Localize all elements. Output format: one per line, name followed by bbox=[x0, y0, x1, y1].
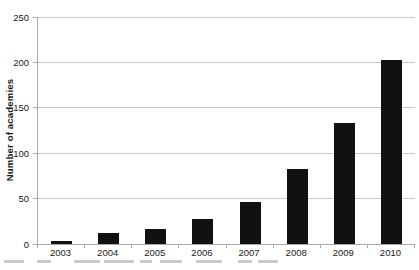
x-label-2007: 2007 bbox=[226, 247, 273, 258]
y-tick-mark-100 bbox=[33, 153, 37, 154]
band-2005 bbox=[132, 17, 179, 244]
band-2007 bbox=[227, 17, 274, 244]
x-axis-labels: 20032004200520062007200820092010 bbox=[37, 247, 414, 258]
y-tick-label-50: 50 bbox=[0, 193, 33, 204]
y-tick-mark-50 bbox=[33, 198, 37, 199]
bar-2010 bbox=[381, 60, 402, 244]
bar-2006 bbox=[192, 219, 213, 244]
x-tick-mark-8 bbox=[414, 245, 415, 248]
x-label-2004: 2004 bbox=[84, 247, 131, 258]
y-tick-label-250: 250 bbox=[0, 12, 33, 23]
bars-container bbox=[38, 17, 415, 244]
y-tick-mark-150 bbox=[33, 107, 37, 108]
y-tick-label-200: 200 bbox=[0, 57, 33, 68]
band-2008 bbox=[274, 17, 321, 244]
bar-2008 bbox=[287, 169, 308, 244]
x-label-2003: 2003 bbox=[37, 247, 84, 258]
y-tick-mark-250 bbox=[33, 17, 37, 18]
band-2003 bbox=[38, 17, 85, 244]
x-label-2009: 2009 bbox=[320, 247, 367, 258]
x-label-2008: 2008 bbox=[273, 247, 320, 258]
y-tick-label-100: 100 bbox=[0, 148, 33, 159]
x-label-2006: 2006 bbox=[178, 247, 225, 258]
y-axis-title: Number of academies bbox=[4, 79, 15, 182]
x-label-2010: 2010 bbox=[367, 247, 414, 258]
bar-chart-figure: Number of academies 050100150200250 2003… bbox=[0, 0, 419, 270]
bar-2003 bbox=[51, 241, 72, 244]
band-2004 bbox=[85, 17, 132, 244]
y-tick-label-150: 150 bbox=[0, 102, 33, 113]
bar-2007 bbox=[240, 202, 261, 244]
y-tick-mark-200 bbox=[33, 62, 37, 63]
band-2006 bbox=[179, 17, 226, 244]
bar-2005 bbox=[145, 229, 166, 244]
band-2010 bbox=[368, 17, 415, 244]
band-2009 bbox=[321, 17, 368, 244]
y-tick-label-0: 0 bbox=[0, 239, 33, 250]
bar-2009 bbox=[334, 123, 355, 244]
plot-area bbox=[37, 17, 415, 245]
bar-2004 bbox=[98, 233, 119, 244]
cropped-caption-fragment bbox=[4, 260, 404, 268]
x-label-2005: 2005 bbox=[131, 247, 178, 258]
